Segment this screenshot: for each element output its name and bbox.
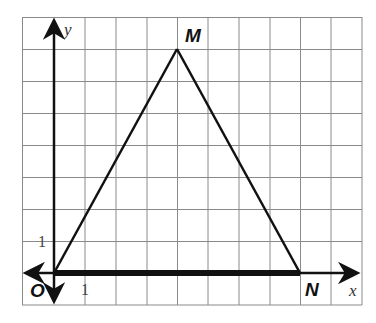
point-label-O: O — [30, 280, 45, 301]
point-label-N: N — [305, 279, 320, 300]
grid — [22, 17, 362, 305]
x-tick-label-1: 1 — [81, 281, 89, 298]
x-axis-label: x — [348, 281, 357, 300]
coordinate-plane: y x 1 1 M N O — [0, 0, 376, 323]
y-tick-label-1: 1 — [38, 233, 46, 250]
point-label-M: M — [185, 25, 202, 46]
y-axis-label: y — [62, 20, 72, 39]
axes — [27, 22, 356, 300]
